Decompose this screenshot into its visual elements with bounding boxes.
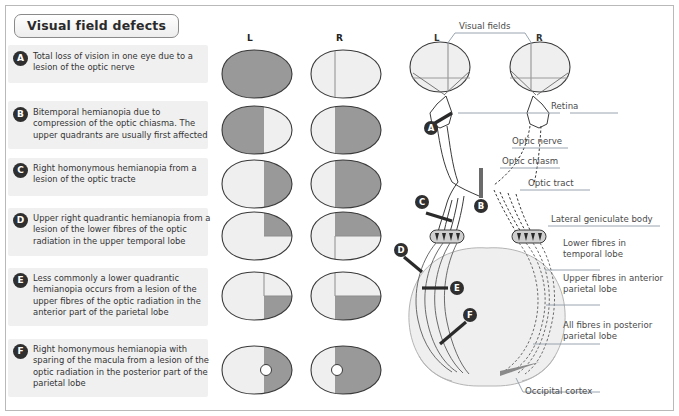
label-optic-nerve: Optic nerve: [512, 136, 562, 146]
label-retina: Retina: [551, 101, 578, 111]
label-lateral-geniculate-body: Lateral geniculate body: [551, 214, 653, 224]
anatomy-label-left: L: [434, 33, 439, 43]
label-optic-chiasm: Optic chiasm: [502, 156, 558, 166]
label-upper-fibres-line2: parietal lobe: [563, 284, 663, 295]
label-all-fibres-line1: All fibres in posterior: [563, 320, 652, 331]
label-occipital-cortex: Occipital cortex: [525, 386, 592, 396]
row-text-c: Right homonymous hemianopia from a lesio…: [33, 163, 213, 186]
label-upper-fibres-anterior-parietal-lobe: Upper fibres in anterior parietal lobe: [563, 273, 663, 295]
column-header-right: R: [336, 33, 343, 43]
row-text-b: Bitemporal hemianopia due to compression…: [33, 107, 213, 141]
label-upper-fibres-line1: Upper fibres in anterior: [563, 273, 663, 284]
label-all-fibres-line2: parietal lobe: [563, 331, 652, 342]
label-all-fibres-posterior-parietal-lobe: All fibres in posterior parietal lobe: [563, 320, 652, 342]
row-text-f: Right homonymous hemianopia with sparing…: [33, 344, 213, 390]
lesion-marker-c: C: [415, 195, 429, 209]
row-badge-d: D: [13, 213, 28, 228]
row-text-a: Total loss of vision in one eye due to a…: [33, 51, 213, 74]
lesion-marker-a: A: [424, 121, 438, 135]
lesion-marker-e: E: [450, 281, 464, 295]
row-badge-b: B: [13, 107, 28, 122]
row-text-e: Less commonly a lower quadrantic hemiano…: [33, 273, 213, 319]
visual-fields-label: Visual fields: [459, 21, 510, 31]
lesion-marker-d: D: [394, 243, 408, 257]
row-text-d: Upper right quadrantic hemianopia from a…: [33, 213, 213, 247]
lesion-marker-b: B: [474, 199, 488, 213]
lesion-marker-f: F: [463, 308, 477, 322]
label-lower-fibres-temporal-lobe: Lower fibres in temporal lobe: [563, 238, 626, 260]
row-badge-f: F: [13, 344, 28, 359]
label-optic-tract: Optic tract: [528, 178, 574, 188]
visual-field-defects-figure: Visual field defects L R A Total loss of…: [0, 0, 679, 416]
figure-title: Visual field defects: [14, 14, 179, 38]
row-badge-e: E: [13, 273, 28, 288]
label-lower-fibres-line2: temporal lobe: [563, 249, 626, 260]
row-badge-a: A: [13, 51, 28, 66]
anatomy-label-right: R: [536, 33, 543, 43]
label-lower-fibres-line1: Lower fibres in: [563, 238, 626, 249]
row-badge-c: C: [13, 163, 28, 178]
column-header-left: L: [247, 33, 253, 43]
